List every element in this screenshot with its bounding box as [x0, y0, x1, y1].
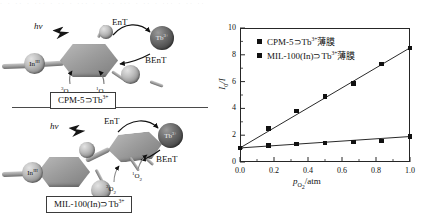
y-tick-label: 6: [220, 77, 236, 86]
scheme-caption-mil100in: MIL-100(In)⊃Tb3+: [46, 196, 132, 213]
scheme-cpm5: InIII Tb3+ hν EnT BEnT 3O2 1O2: [0, 8, 219, 108]
legend-label: MIL-100(In)⊃Tb3+薄膜: [267, 49, 355, 62]
x-tick-label: 0.6: [330, 166, 354, 175]
x-tick-label: 1.0: [398, 166, 422, 175]
y-tick-label: 8: [220, 50, 236, 59]
x-axis-sub: O2: [298, 182, 305, 188]
data-point-marker: [379, 62, 384, 67]
x-tick-label: 0.2: [262, 166, 286, 175]
y-tick-label: 0: [220, 157, 236, 166]
x-axis-label: pO2/atm: [293, 176, 321, 190]
chart-legend: CPM-5⊃Tb3+薄膜 MIL-100(In)⊃Tb3+薄膜: [257, 36, 355, 64]
legend-marker-square: [257, 53, 262, 58]
energy-transfer-arrows: [0, 110, 219, 210]
data-point-marker: [323, 94, 328, 99]
data-point-marker: [238, 146, 243, 151]
data-point-marker: [408, 46, 413, 51]
data-point-marker: [266, 143, 271, 148]
data-point-marker: [351, 81, 356, 86]
scheme-caption-cpm5: CPM-5⊃Tb3+: [50, 92, 116, 109]
x-tick-label: 0.0: [228, 166, 252, 175]
data-point-marker: [294, 142, 299, 147]
legend-label: CPM-5⊃Tb3+薄膜: [267, 35, 335, 48]
legend-item: MIL-100(In)⊃Tb3+薄膜: [257, 50, 355, 61]
y-tick-label: 2: [220, 130, 236, 139]
figure-root: · · ·· · ··· · ·· · ··· · · ·· ··· · ·· …: [0, 0, 438, 217]
legend-item: CPM-5⊃Tb3+薄膜: [257, 36, 355, 47]
legend-marker-square: [257, 39, 262, 44]
x-tick-label: 0.8: [364, 166, 388, 175]
y-tick-label: 4: [220, 103, 236, 112]
data-point-marker: [379, 139, 384, 144]
data-point-marker: [294, 109, 299, 114]
scheme-mil100in: InIII Tb3+ hν EnT BEnT 3O2 1O2: [0, 110, 219, 210]
x-tick-label: 0.4: [296, 166, 320, 175]
mechanism-panel: InIII Tb3+ hν EnT BEnT 3O2 1O2: [0, 4, 219, 217]
data-point-marker: [323, 141, 328, 146]
chart-panel: I0/I pO2/atm CPM-5⊃Tb3+薄膜 MIL-100(In)⊃Tb…: [219, 0, 438, 217]
chart-canvas: [219, 0, 438, 217]
data-point-marker: [408, 134, 413, 139]
molecular-model-mil100in: InIII Tb3+ hν EnT BEnT 3O2 1O2: [0, 110, 219, 210]
data-point-marker: [351, 140, 356, 145]
y-tick-label: 10: [220, 23, 236, 32]
data-point-marker: [266, 126, 271, 131]
